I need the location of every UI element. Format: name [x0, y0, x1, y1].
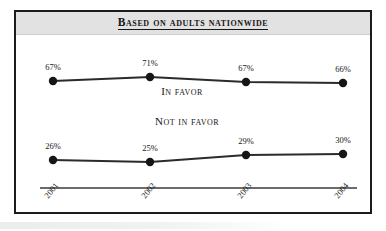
- page-title: Based on adults nationwide: [118, 16, 269, 30]
- series-line-in-favor: [53, 77, 343, 83]
- value-label: 26%: [45, 141, 61, 151]
- data-point-marker: [339, 150, 347, 158]
- data-point-marker: [146, 73, 154, 81]
- data-point-marker: [146, 158, 154, 166]
- page-artifact-band: [0, 222, 290, 229]
- data-point-marker: [339, 79, 347, 87]
- series-annotation-in-favor: In favor: [161, 85, 203, 97]
- series-line-not-in-favor: [53, 154, 343, 162]
- value-label: 66%: [335, 64, 351, 74]
- value-label: 71%: [142, 58, 158, 68]
- data-point-marker: [242, 78, 250, 86]
- value-label: 30%: [335, 135, 351, 145]
- value-label: 25%: [142, 143, 158, 153]
- data-point-marker: [49, 156, 57, 164]
- data-point-marker: [49, 77, 57, 85]
- value-label: 29%: [238, 136, 254, 146]
- chart-title-band: Based on adults nationwide: [16, 12, 370, 35]
- series-annotation-not-in-favor: Not in favor: [155, 115, 219, 127]
- value-label: 67%: [238, 63, 254, 73]
- value-label: 67%: [45, 62, 61, 72]
- chart-figure: Based on adults nationwide In favor Not …: [14, 10, 372, 214]
- data-point-marker: [242, 151, 250, 159]
- plot-area: In favor Not in favor 67% 71% 67% 66% 26…: [16, 34, 370, 214]
